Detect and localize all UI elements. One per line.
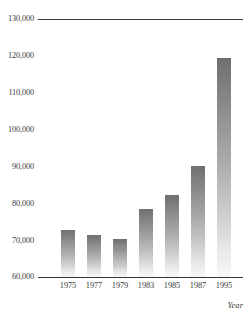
top-axis-rule: [38, 19, 243, 20]
y-tick-label-110000: 110,000: [0, 89, 34, 97]
bar-1975: [61, 230, 75, 277]
bar-chart-figure: 130,000 120,000 110,000 100,000 90,000 8…: [0, 0, 249, 321]
y-tick-label-130000: 130,000: [0, 15, 34, 23]
x-tick-label-1995: 1995: [204, 281, 244, 290]
bar-1995: [217, 58, 231, 277]
plot-area: 130,000 120,000 110,000 100,000 90,000 8…: [0, 0, 249, 321]
bar-1983: [139, 209, 153, 277]
y-tick-label-90000: 90,000: [0, 163, 34, 171]
bar-1987: [191, 166, 205, 277]
baseline-axis-rule: [38, 277, 243, 278]
y-tick-label-120000: 120,000: [0, 52, 34, 60]
bar-1977: [87, 235, 101, 277]
y-tick-label-70000: 70,000: [0, 237, 34, 245]
bar-1985: [165, 195, 179, 277]
y-tick-label-60000: 60,000: [0, 273, 34, 281]
y-tick-label-100000: 100,000: [0, 126, 34, 134]
y-tick-label-80000: 80,000: [0, 200, 34, 208]
bar-1979: [113, 239, 127, 277]
x-axis-title: Year: [228, 300, 243, 310]
